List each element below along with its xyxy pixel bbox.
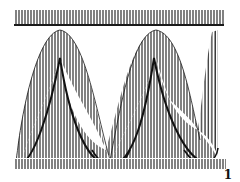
bottom-hatched-band xyxy=(14,158,226,170)
hatched-wave-illustration xyxy=(0,0,240,182)
hatched-waveform xyxy=(16,30,218,166)
figure-number: 1 xyxy=(224,168,232,182)
top-hatched-band xyxy=(14,10,224,25)
